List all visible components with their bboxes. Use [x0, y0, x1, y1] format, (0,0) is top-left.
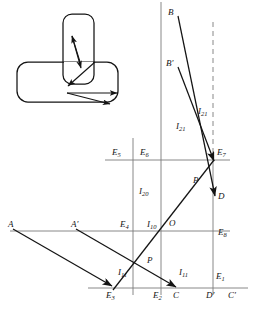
label-C: C: [173, 291, 179, 300]
label-I20: I20: [139, 187, 149, 196]
label-P-upper: P: [193, 176, 199, 185]
diagram-canvas: B B′ I21 I21 E5 E6 E7 P I20 D A A′ E4 I1…: [0, 0, 254, 309]
label-O: O: [169, 219, 176, 228]
label-B-prime: B′: [166, 59, 173, 68]
construction-axes: [10, 2, 248, 295]
label-D-prime: D′: [206, 291, 214, 300]
label-P-lower: P: [147, 256, 153, 265]
ray-A-to-E3: [13, 229, 112, 286]
label-E2: E2: [153, 291, 162, 300]
label-I11-left: I11: [118, 268, 127, 277]
label-D: D: [218, 192, 225, 201]
label-B: B: [168, 8, 174, 17]
inset-vertical-link: [63, 14, 94, 84]
label-I21-lower: I21: [176, 122, 186, 131]
ray-B-to-D: [178, 16, 215, 196]
label-E3: E3: [106, 291, 115, 300]
inset-mechanism: [17, 14, 118, 104]
ray-Bprime-to-E7: [178, 67, 214, 161]
label-I10: I10: [147, 220, 157, 229]
diagram-svg: [0, 0, 254, 309]
label-I11-right: I11: [179, 268, 188, 277]
label-E1: E1: [216, 272, 225, 281]
label-E7: E7: [217, 148, 226, 157]
label-C-prime: C′: [228, 291, 236, 300]
label-E5: E5: [112, 148, 121, 157]
label-E4: E4: [120, 220, 129, 229]
label-E8: E8: [218, 228, 227, 237]
label-I21-upper: I21: [198, 107, 208, 116]
label-A: A: [8, 220, 14, 229]
label-E6: E6: [140, 148, 149, 157]
inset-horizontal-base: [17, 62, 118, 102]
label-A-prime: A′: [71, 220, 78, 229]
